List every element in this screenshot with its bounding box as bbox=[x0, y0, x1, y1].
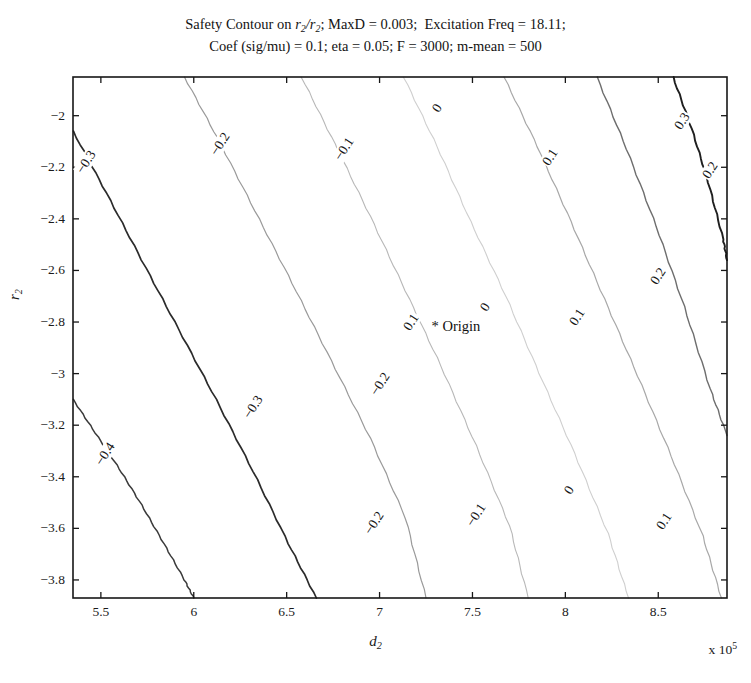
title-line-1: Safety Contour on r2/r2; MaxD = 0.003; E… bbox=[0, 14, 751, 36]
x-tick-label: 6.5 bbox=[278, 604, 295, 620]
x-axis-label: d2 bbox=[0, 633, 751, 651]
y-axis-symbol: r bbox=[6, 294, 22, 300]
x-multiplier-base: x 10 bbox=[709, 642, 733, 657]
x-tick-label: 5.5 bbox=[92, 604, 109, 620]
y-tick-label: −2.8 bbox=[41, 314, 66, 330]
contour-figure: Safety Contour on r2/r2; MaxD = 0.003; E… bbox=[0, 0, 751, 683]
chart-title: Safety Contour on r2/r2; MaxD = 0.003; E… bbox=[0, 14, 751, 57]
x-axis-subscript: 2 bbox=[377, 640, 382, 651]
x-axis-multiplier: x 105 bbox=[709, 640, 737, 658]
x-tick-label: 8.5 bbox=[650, 604, 667, 620]
contour-line bbox=[403, 77, 628, 598]
y-tick-label: −3.6 bbox=[41, 520, 66, 536]
contour-line bbox=[597, 77, 727, 436]
y-tick-label: −2.4 bbox=[41, 211, 66, 227]
y-axis-subscript: 2 bbox=[13, 289, 24, 294]
title-l1-pre: Safety Contour on bbox=[185, 16, 295, 32]
plot-canvas bbox=[0, 0, 751, 683]
y-tick-label: −3.2 bbox=[41, 417, 66, 433]
x-multiplier-exponent: 5 bbox=[732, 640, 737, 651]
contour-lines bbox=[73, 77, 727, 598]
y-tick-label: −2 bbox=[51, 108, 65, 124]
y-tick-label: −3.8 bbox=[41, 572, 66, 588]
y-tick-label: −2.2 bbox=[41, 159, 66, 175]
origin-annotation: * Origin bbox=[432, 318, 481, 335]
x-tick-label: 8 bbox=[562, 604, 569, 620]
y-tick-label: −2.6 bbox=[41, 262, 66, 278]
contour-line bbox=[504, 77, 721, 598]
contour-line bbox=[73, 399, 193, 598]
x-tick-label: 7.5 bbox=[464, 604, 481, 620]
y-tick-label: −3 bbox=[51, 366, 65, 382]
title-l1-post: ; MaxD = 0.003; Excitation Freq = 18.11; bbox=[320, 16, 565, 32]
x-tick-label: 7 bbox=[376, 604, 383, 620]
y-axis-label: r2 bbox=[6, 289, 24, 300]
contour-line bbox=[73, 131, 316, 598]
x-tick-label: 6 bbox=[190, 604, 197, 620]
x-axis-symbol: d bbox=[369, 633, 377, 649]
title-line-2: Coef (sig/mu) = 0.1; eta = 0.05; F = 300… bbox=[0, 36, 751, 57]
y-tick-label: −3.4 bbox=[41, 469, 66, 485]
